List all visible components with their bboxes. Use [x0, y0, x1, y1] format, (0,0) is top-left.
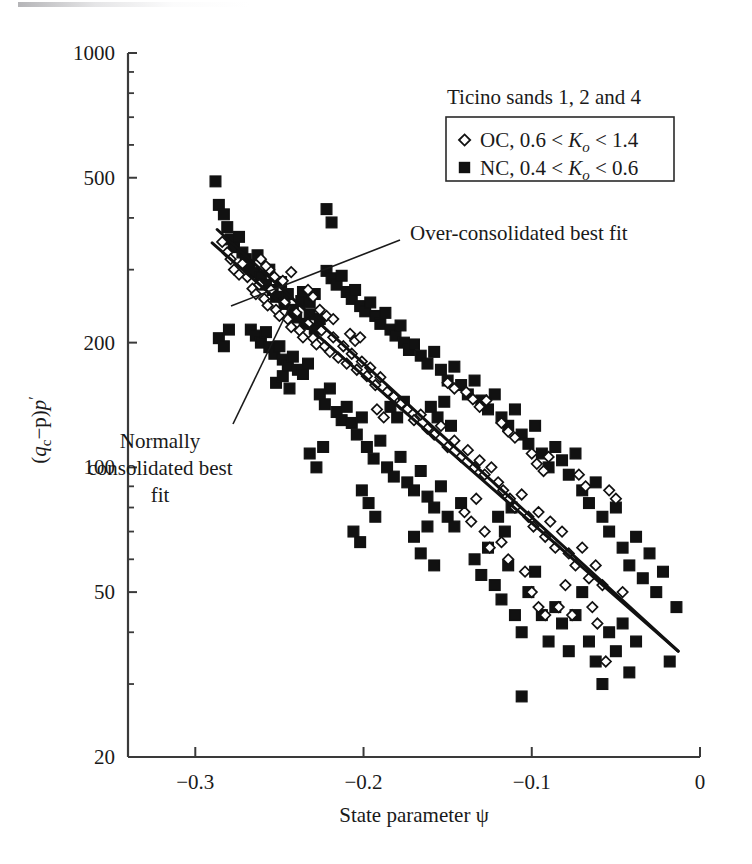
data-point-nc: [658, 566, 669, 577]
y-tick-group: [128, 53, 137, 757]
data-point-nc: [341, 401, 352, 412]
svg-text:(qc−p)pʹ: (qc−p)pʹ: [26, 396, 54, 464]
data-point-oc: [587, 602, 597, 612]
data-point-nc: [395, 451, 406, 462]
data-point-oc: [527, 448, 537, 458]
y-tick-label: 50: [94, 580, 115, 604]
data-point-oc: [520, 567, 530, 577]
y-tick-label-group: 20501002005001000: [73, 41, 115, 769]
data-point-nc: [597, 679, 608, 690]
legend[interactable]: Ticino sands 1, 2 and 4 OC, 0.6 < Ko < 1…: [446, 85, 674, 183]
legend-entry-oc[interactable]: OC, 0.6 < Ko < 1.4: [459, 128, 639, 155]
data-point-nc: [597, 511, 608, 522]
data-point-nc: [550, 442, 561, 453]
data-point-nc: [356, 485, 367, 496]
data-point-nc: [469, 554, 480, 565]
data-point-nc: [274, 341, 285, 352]
data-point-nc: [671, 602, 682, 613]
data-point-nc: [436, 481, 447, 492]
legend-label-oc: OC, 0.6 < Ko < 1.4: [480, 128, 639, 155]
data-point-nc: [604, 526, 615, 537]
data-point-nc: [356, 412, 367, 423]
data-point-oc: [560, 580, 570, 590]
data-point-nc: [326, 217, 337, 228]
data-point-nc: [624, 560, 635, 571]
data-point-nc: [224, 324, 235, 335]
data-point-nc: [436, 364, 447, 375]
data-point-nc: [631, 531, 642, 542]
x-tick-label-group: −0.3−0.2−0.10: [176, 770, 705, 794]
annotation-normally-consolidated-line1: Normally: [120, 429, 201, 453]
data-point-oc: [533, 507, 543, 517]
annotation-over-consolidated: Over-consolidated best fit: [410, 221, 628, 245]
legend-label-nc: NC, 0.4 < Ko < 0.6: [480, 156, 638, 183]
legend-nc-prefix: NC, 0.4 <: [480, 156, 563, 180]
y-axis-title: (qc−p)pʹ: [26, 396, 54, 464]
y-tick-label: 200: [84, 331, 116, 355]
data-point-nc: [222, 222, 233, 233]
data-point-oc: [486, 462, 496, 472]
over-consolidated-best-fit: [217, 230, 678, 652]
data-point-nc: [516, 691, 527, 702]
data-point-nc: [610, 646, 621, 657]
data-point-nc: [392, 412, 403, 423]
y-tick-label: 20: [94, 745, 115, 769]
data-point-nc: [361, 442, 372, 453]
y-axis-title-open: (: [27, 457, 51, 464]
data-point-nc: [409, 531, 420, 542]
data-point-oc: [286, 267, 296, 277]
legend-oc-symbol: K: [567, 128, 583, 152]
data-point-nc: [624, 667, 635, 678]
data-point-nc: [584, 498, 595, 509]
data-point-nc: [298, 369, 309, 380]
data-point-oc: [592, 618, 602, 628]
data-point-nc: [429, 560, 440, 571]
data-point-nc: [415, 548, 426, 559]
annotation-normally-consolidated-line3: fit: [151, 483, 170, 507]
data-point-nc: [409, 485, 420, 496]
data-point-nc: [499, 526, 510, 537]
data-point-nc: [449, 521, 460, 532]
data-point-nc: [469, 375, 480, 386]
data-point-nc: [429, 346, 440, 357]
data-point-nc: [510, 610, 521, 621]
filled-square-icon: [460, 163, 470, 173]
data-point-nc: [422, 521, 433, 532]
data-point-nc: [348, 526, 359, 537]
x-tick-label: −0.2: [344, 770, 382, 794]
data-point-oc: [557, 526, 567, 536]
data-point-nc: [530, 420, 541, 431]
legend-title: Ticino sands 1, 2 and 4: [447, 85, 642, 109]
data-point-oc: [574, 470, 584, 480]
data-point-nc: [617, 618, 628, 629]
data-point-nc: [375, 318, 386, 329]
data-point-nc: [584, 636, 595, 647]
legend-oc-suffix: < 1.4: [595, 128, 639, 152]
data-point-nc: [563, 646, 574, 657]
data-point-oc: [532, 459, 542, 469]
data-point-nc: [493, 511, 504, 522]
data-point-oc: [496, 537, 506, 547]
data-point-nc: [304, 448, 315, 459]
data-point-nc: [365, 297, 376, 308]
data-point-oc: [471, 494, 481, 504]
data-point-oc: [466, 516, 476, 526]
x-tick-group: [195, 747, 700, 757]
data-point-nc: [496, 594, 507, 605]
scatter-chart: 20501002005001000 −0.3−0.2−0.10 Over-con…: [0, 0, 752, 864]
data-point-nc: [351, 429, 362, 440]
data-point-nc: [218, 209, 229, 220]
legend-entry-nc[interactable]: NC, 0.4 < Ko < 0.6: [460, 156, 639, 183]
data-point-nc: [324, 383, 335, 394]
data-point-nc: [218, 341, 229, 352]
data-point-nc: [422, 491, 433, 502]
data-point-nc: [368, 453, 379, 464]
data-point-nc: [261, 327, 272, 338]
y-axis-title-q: q: [27, 446, 51, 457]
data-point-nc: [355, 537, 366, 548]
data-point-nc: [476, 570, 487, 581]
data-point-nc: [287, 351, 298, 362]
data-point-nc: [489, 580, 500, 591]
data-point-nc: [363, 498, 374, 509]
y-axis-title-minus: −p): [27, 410, 51, 439]
